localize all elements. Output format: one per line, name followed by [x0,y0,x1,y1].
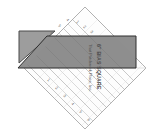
ruler-title: 6" BIAS SQUARE [96,44,102,90]
ruler-illustration: 6" BIAS SQUARE That Patchwork Place, Inc… [0,0,150,138]
ruler-scene: 6" BIAS SQUARE That Patchwork Place, Inc… [0,0,150,138]
ruler-brand: That Patchwork Place, Inc. [88,44,93,92]
ruler-body-group [0,0,150,138]
ruler-tick-label: 5 [57,23,63,29]
